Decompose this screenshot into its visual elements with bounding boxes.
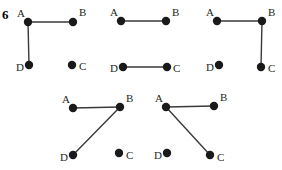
node-D (119, 63, 127, 71)
node-label-B: B (79, 6, 86, 18)
edge-BC (261, 21, 262, 67)
edge-BD (73, 107, 120, 155)
node-D (163, 149, 171, 157)
graph-graph-1: ABCD (16, 6, 86, 73)
node-B (258, 17, 266, 25)
edge-AD (28, 22, 29, 65)
node-label-B: B (172, 6, 179, 18)
node-label-B: B (220, 91, 227, 103)
node-label-A: A (206, 6, 214, 18)
node-A (24, 18, 32, 26)
node-A (69, 104, 77, 112)
node-C (163, 63, 171, 71)
node-label-A: A (17, 7, 25, 19)
edge-AB (73, 107, 120, 108)
node-label-B: B (268, 6, 275, 18)
node-label-C: C (217, 151, 224, 163)
node-label-D: D (206, 61, 214, 73)
node-C (68, 61, 76, 69)
node-label-D: D (110, 62, 118, 74)
node-B (69, 18, 77, 26)
graph-graph-4: ABCD (60, 92, 133, 163)
node-B (116, 103, 124, 111)
graph-graph-3: ABCD (206, 6, 275, 74)
node-A (213, 17, 221, 25)
node-label-C: C (173, 62, 180, 74)
node-C (115, 149, 123, 157)
node-label-C: C (126, 149, 133, 161)
node-label-D: D (154, 149, 162, 161)
edge-AC (166, 107, 210, 155)
node-B (210, 102, 218, 110)
edge-AB (166, 106, 214, 107)
node-D (69, 151, 77, 159)
node-label-D: D (60, 151, 68, 163)
node-A (117, 17, 125, 25)
node-label-A: A (155, 92, 163, 104)
node-label-A: A (110, 6, 118, 18)
node-label-A: A (62, 93, 70, 105)
node-label-C: C (268, 62, 275, 74)
figure-container: 6 ABCDABCDABCDABCDABCD (0, 0, 282, 170)
node-label-C: C (79, 60, 86, 72)
graph-graph-2: ABCD (110, 6, 180, 74)
graph-graph-5: ABCD (154, 91, 227, 163)
node-B (162, 17, 170, 25)
node-D (25, 61, 33, 69)
graph-diagrams: ABCDABCDABCDABCDABCD (0, 0, 282, 170)
node-C (257, 63, 265, 71)
node-C (206, 151, 214, 159)
node-A (162, 103, 170, 111)
node-label-D: D (16, 61, 24, 73)
node-D (215, 61, 223, 69)
node-label-B: B (126, 92, 133, 104)
